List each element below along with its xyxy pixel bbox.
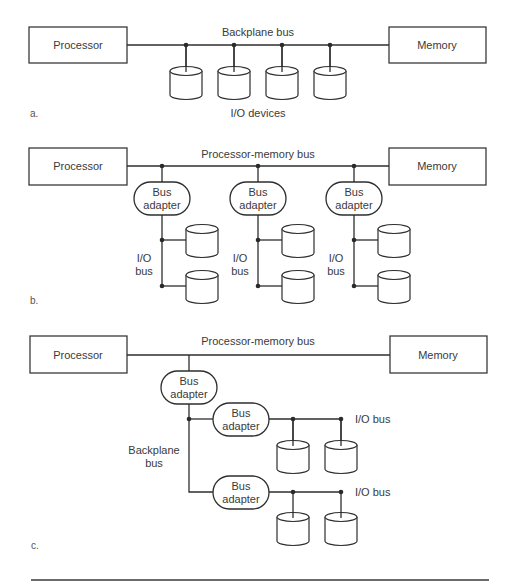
sub-adapter-group-2: Bus adapter I/O bus — [213, 476, 391, 546]
bus-adapter-label: adapter — [222, 420, 260, 432]
io-bus-label: bus — [231, 265, 249, 277]
io-bus-label: bus — [327, 265, 345, 277]
backplane-bus-line — [189, 404, 213, 492]
bus-adapter-label: Bus — [153, 186, 172, 198]
io-bus-label: I/O bus — [355, 486, 391, 498]
adapter-group-1: Bus adapter I/O bus — [134, 164, 218, 304]
sub-adapter-group-1: Bus adapter I/O bus — [213, 403, 391, 474]
bus-adapter-label: adapter — [335, 199, 373, 211]
panel-c-label: c. — [31, 540, 39, 551]
processor-memory-bus-label: Processor-memory bus — [201, 148, 315, 160]
bus-adapter-label: adapter — [143, 199, 181, 211]
panel-c: Processor Memory Processor-memory bus Bu… — [30, 335, 487, 551]
bus-adapter-label: Bus — [232, 407, 251, 419]
disk-icon — [282, 271, 314, 304]
bus-adapter-label: adapter — [170, 388, 208, 400]
disk-icon — [186, 225, 218, 258]
backplane-bus-label: Backplane — [128, 444, 179, 456]
memory-label: Memory — [417, 39, 457, 51]
adapter-group-2: Bus adapter I/O bus — [230, 164, 314, 304]
io-bus-label: I/O — [329, 252, 344, 264]
processor-label: Processor — [53, 160, 103, 172]
panel-b-label: b. — [30, 295, 38, 306]
panel-b: Processor Memory Processor-memory bus Bu… — [29, 148, 486, 306]
io-device-drums — [170, 43, 346, 100]
bus-adapter-label: Bus — [345, 186, 364, 198]
memory-label: Memory — [418, 349, 458, 361]
io-bus-label: I/O bus — [355, 413, 391, 425]
bus-adapter-label: adapter — [239, 199, 277, 211]
io-bus-label: I/O — [137, 252, 152, 264]
panel-a: Processor Memory Backplane bus I/O devic… — [29, 26, 486, 119]
processor-label: Processor — [53, 39, 103, 51]
backplane-bus-label: Backplane bus — [222, 26, 295, 38]
disk-icon — [186, 271, 218, 304]
memory-label: Memory — [417, 160, 457, 172]
backplane-bus-label: bus — [145, 457, 163, 469]
bus-adapter-label: adapter — [222, 493, 260, 505]
disk-icon — [378, 225, 410, 258]
disk-icon — [378, 271, 410, 304]
io-devices-label: I/O devices — [230, 107, 286, 119]
processor-memory-bus-label: Processor-memory bus — [201, 335, 315, 347]
bus-adapter-label: Bus — [232, 480, 251, 492]
processor-label: Processor — [53, 349, 103, 361]
bus-organization-diagram: Processor Memory Backplane bus I/O devic… — [0, 0, 511, 582]
io-bus-label: I/O — [233, 252, 248, 264]
panel-a-label: a. — [30, 108, 38, 119]
bus-adapter-label: Bus — [249, 186, 268, 198]
disk-icon — [282, 225, 314, 258]
io-bus-label: bus — [135, 265, 153, 277]
bus-adapter-label: Bus — [180, 375, 199, 387]
